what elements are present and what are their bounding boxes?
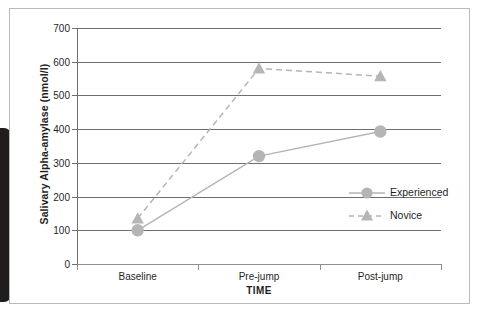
scanned-page: Salivary Alpha-amylase (nmol/l) 01002003… [0,0,479,319]
triangle-marker [253,62,265,73]
chart-legend: Experienced Novice [348,183,474,229]
legend-item-experienced: Experienced [348,183,474,206]
legend-label-novice: Novice [390,209,422,221]
series-line [138,132,381,231]
series-layer [0,0,479,319]
circle-marker [374,125,386,137]
legend-label-experienced: Experienced [390,186,448,198]
circle-marker [253,150,265,162]
circle-marker-icon [348,183,386,203]
triangle-marker-icon [348,206,386,226]
triangle-marker [131,212,143,223]
series-line [138,68,381,218]
line-chart: Salivary Alpha-amylase (nmol/l) 01002003… [0,0,479,319]
circle-marker [131,224,143,236]
legend-item-novice: Novice [348,206,474,229]
